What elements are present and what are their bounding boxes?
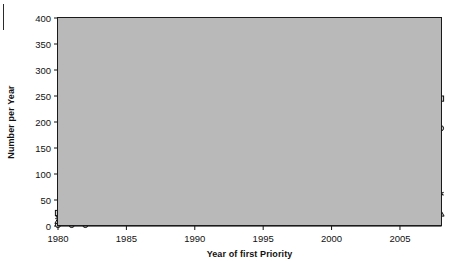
x-tick-label-2000: 2000 (321, 233, 342, 244)
y-tick-label-150: 150 (35, 143, 51, 154)
x-tick-label-1985: 1985 (116, 233, 137, 244)
scan-edge-artifact (3, 4, 4, 30)
x-tick-label-1980: 1980 (47, 233, 68, 244)
y-tick-label-300: 300 (35, 65, 51, 76)
x-tick-label-1995: 1995 (253, 233, 274, 244)
chart-root: 0501001502002503003504001980198519901995… (0, 0, 449, 261)
y-axis-title: Number per Year (6, 85, 16, 159)
y-tick-label-200: 200 (35, 117, 51, 128)
y-tick-label-50: 50 (40, 195, 51, 206)
y-tick-label-250: 250 (35, 91, 51, 102)
plot-area-background (57, 17, 442, 226)
x-axis-title: Year of first Priority (207, 249, 293, 259)
x-tick-label-1990: 1990 (184, 233, 205, 244)
y-tick-label-400: 400 (35, 13, 51, 24)
y-tick-label-350: 350 (35, 39, 51, 50)
y-tick-label-100: 100 (35, 169, 51, 180)
y-tick-label-0: 0 (46, 221, 51, 232)
x-tick-label-2005: 2005 (389, 233, 410, 244)
